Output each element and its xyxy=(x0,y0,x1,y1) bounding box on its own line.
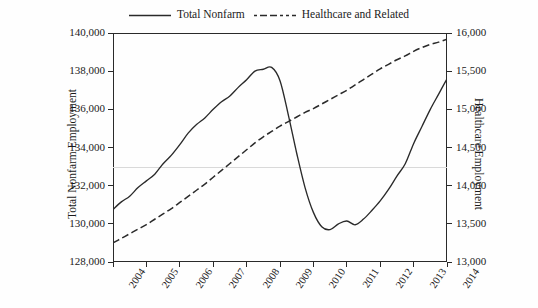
y-tick-label-left: 128,000 xyxy=(69,256,105,267)
y-tick-label-right: 14,000 xyxy=(456,180,486,191)
series-line-healthcare xyxy=(113,39,447,243)
legend-item-total-nonfarm: Total Nonfarm xyxy=(129,9,245,21)
plot-area: 128,000130,000132,000134,000136,000138,0… xyxy=(113,33,447,262)
x-tick xyxy=(447,262,448,267)
legend-key-healthcare xyxy=(254,11,296,20)
x-tick-label: 2013 xyxy=(428,267,448,290)
x-tick xyxy=(146,262,147,267)
y-tick-label-right: 13,000 xyxy=(456,256,486,267)
x-tick-label: 2014 xyxy=(461,267,481,290)
legend-label-healthcare: Healthcare and Related xyxy=(302,9,409,21)
x-tick xyxy=(213,262,214,267)
x-tick xyxy=(280,262,281,267)
x-tick xyxy=(179,262,180,267)
legend-key-total-nonfarm xyxy=(129,11,171,20)
y-tick-label-left: 130,000 xyxy=(69,218,105,229)
x-tick xyxy=(313,262,314,267)
x-tick xyxy=(346,262,347,267)
y-tick-label-left: 132,000 xyxy=(69,180,105,191)
chart-figure: Total Nonfarm Healthcare and Related Tot… xyxy=(0,0,538,308)
y-tick-label-right: 15,500 xyxy=(456,65,486,76)
series-layer xyxy=(113,33,447,262)
x-tick-label: 2005 xyxy=(161,267,181,290)
x-tick-label: 2008 xyxy=(261,267,281,290)
y-tick-right xyxy=(447,185,452,186)
y-tick-label-right: 16,000 xyxy=(456,27,486,38)
y-tick-right xyxy=(447,71,452,72)
x-tick-label: 2011 xyxy=(361,267,381,290)
x-tick xyxy=(413,262,414,267)
x-tick-label: 2004 xyxy=(127,267,147,290)
y-tick-right xyxy=(447,33,452,34)
x-tick xyxy=(246,262,247,267)
y-tick-label-left: 134,000 xyxy=(69,142,105,153)
y-tick-label-right: 15,000 xyxy=(456,103,486,114)
y-tick-right xyxy=(447,109,452,110)
x-tick-label: 2010 xyxy=(328,267,348,290)
y-tick-label-left: 140,000 xyxy=(69,27,105,38)
legend-item-healthcare: Healthcare and Related xyxy=(254,9,409,21)
x-tick xyxy=(113,262,114,267)
chart-legend: Total Nonfarm Healthcare and Related xyxy=(0,6,538,24)
x-tick xyxy=(380,262,381,267)
y-axis-title-right: Healthcare Employment xyxy=(472,98,484,210)
x-tick-label: 2009 xyxy=(294,267,314,290)
y-tick-label-left: 138,000 xyxy=(69,65,105,76)
y-tick-label-right: 13,500 xyxy=(456,218,486,229)
y-tick-right xyxy=(447,262,452,263)
y-tick-right xyxy=(447,147,452,148)
y-tick-label-left: 136,000 xyxy=(69,103,105,114)
y-tick-label-right: 14,500 xyxy=(456,142,486,153)
x-tick-label: 2007 xyxy=(227,267,247,290)
series-line-total-nonfarm xyxy=(113,67,447,230)
legend-label-total-nonfarm: Total Nonfarm xyxy=(177,9,245,21)
x-tick-label: 2012 xyxy=(394,267,414,290)
x-tick-label: 2006 xyxy=(194,267,214,290)
y-tick-right xyxy=(447,223,452,224)
